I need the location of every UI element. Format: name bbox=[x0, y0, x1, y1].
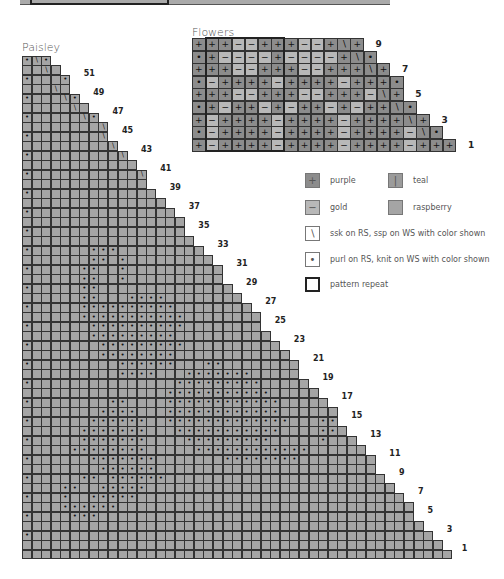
chart-cell bbox=[318, 493, 328, 503]
chart-cell bbox=[356, 493, 366, 503]
chart-cell bbox=[127, 550, 137, 560]
chart-cell: − bbox=[298, 63, 312, 76]
chart-cell: • bbox=[165, 417, 175, 427]
chart-cell bbox=[375, 512, 385, 522]
chart-cell bbox=[79, 189, 89, 199]
chart-cell bbox=[137, 246, 147, 256]
chart-cell bbox=[175, 236, 185, 246]
chart-cell: • bbox=[22, 113, 32, 123]
chart-cell bbox=[60, 208, 70, 218]
chart-cell bbox=[213, 550, 223, 560]
chart-cell: • bbox=[156, 322, 166, 332]
chart-cell bbox=[127, 246, 137, 256]
chart-cell: − bbox=[245, 51, 259, 64]
chart-cell bbox=[108, 151, 118, 161]
chart-cell bbox=[261, 341, 271, 351]
chart-cell: − bbox=[298, 88, 312, 101]
chart-cell: • bbox=[98, 341, 108, 351]
chart-cell bbox=[165, 455, 175, 465]
chart-cell bbox=[156, 246, 166, 256]
chart-cell bbox=[51, 151, 61, 161]
chart-cell: + bbox=[311, 114, 325, 127]
chart-cell: − bbox=[298, 51, 312, 64]
chart-cell bbox=[146, 426, 156, 436]
chart-cell: + bbox=[245, 126, 259, 139]
chart-cell bbox=[156, 417, 166, 427]
chart-cell bbox=[108, 179, 118, 189]
chart-cell: ∖ bbox=[51, 84, 61, 94]
chart-cell: • bbox=[175, 426, 185, 436]
chart-cell: • bbox=[146, 341, 156, 351]
chart-cell bbox=[242, 521, 252, 531]
chart-cell bbox=[337, 483, 347, 493]
chart-cell bbox=[146, 246, 156, 256]
chart-cell bbox=[309, 483, 319, 493]
row-number: 41 bbox=[160, 164, 171, 173]
chart-cell bbox=[146, 445, 156, 455]
chart-cell: • bbox=[108, 331, 118, 341]
chart-cell bbox=[32, 236, 42, 246]
chart-cell bbox=[51, 540, 61, 550]
chart-cell bbox=[41, 255, 51, 265]
chart-cell bbox=[203, 502, 213, 512]
chart-cell bbox=[32, 322, 42, 332]
chart-cell bbox=[51, 265, 61, 275]
chart-cell: + bbox=[205, 88, 219, 101]
chart-cell bbox=[184, 312, 194, 322]
chart-cell bbox=[194, 350, 204, 360]
chart-cell: • bbox=[127, 303, 137, 313]
chart-cell: • bbox=[175, 341, 185, 351]
chart-cell: • bbox=[108, 398, 118, 408]
chart-cell bbox=[270, 483, 280, 493]
chart-cell: • bbox=[156, 350, 166, 360]
chart-cell bbox=[70, 540, 80, 550]
chart-cell bbox=[309, 550, 319, 560]
chart-cell: • bbox=[203, 417, 213, 427]
chart-cell bbox=[41, 417, 51, 427]
chart-cell bbox=[194, 540, 204, 550]
chart-cell bbox=[108, 236, 118, 246]
chart-cell: − bbox=[258, 101, 272, 114]
chart-cell bbox=[261, 369, 271, 379]
chart-cell bbox=[232, 483, 242, 493]
chart-cell bbox=[98, 274, 108, 284]
chart-cell: • bbox=[98, 464, 108, 474]
chart-cell bbox=[242, 493, 252, 503]
chart-cell: − bbox=[205, 76, 219, 89]
chart-cell bbox=[89, 227, 99, 237]
chart-cell bbox=[108, 388, 118, 398]
chart-cell bbox=[328, 436, 338, 446]
chart-cell bbox=[375, 550, 385, 560]
chart-cell bbox=[270, 531, 280, 541]
chart-cell bbox=[156, 388, 166, 398]
chart-cell bbox=[41, 426, 51, 436]
chart-cell bbox=[146, 265, 156, 275]
chart-cell: • bbox=[261, 445, 271, 455]
chart-cell bbox=[32, 274, 42, 284]
chart-cell bbox=[175, 445, 185, 455]
chart-cell bbox=[108, 160, 118, 170]
chart-cell: + bbox=[337, 88, 351, 101]
chart-cell bbox=[242, 350, 252, 360]
chart-cell bbox=[41, 398, 51, 408]
chart-cell bbox=[146, 255, 156, 265]
chart-cell: ∖ bbox=[108, 141, 118, 151]
chart-cell bbox=[337, 474, 347, 484]
chart-cell: • bbox=[289, 445, 299, 455]
chart-cell bbox=[213, 474, 223, 484]
chart-cell: • bbox=[175, 379, 185, 389]
chart-cell bbox=[213, 284, 223, 294]
chart-cell: • bbox=[98, 303, 108, 313]
chart-cell bbox=[22, 236, 32, 246]
chart-cell: • bbox=[203, 379, 213, 389]
chart-cell bbox=[98, 189, 108, 199]
chart-cell: • bbox=[79, 512, 89, 522]
chart-cell bbox=[203, 350, 213, 360]
chart-cell: • bbox=[22, 246, 32, 256]
chart-cell: • bbox=[118, 464, 128, 474]
chart-cell bbox=[203, 274, 213, 284]
chart-cell bbox=[70, 379, 80, 389]
chart-cell bbox=[194, 303, 204, 313]
chart-cell bbox=[32, 113, 42, 123]
chart-cell: • bbox=[137, 322, 147, 332]
